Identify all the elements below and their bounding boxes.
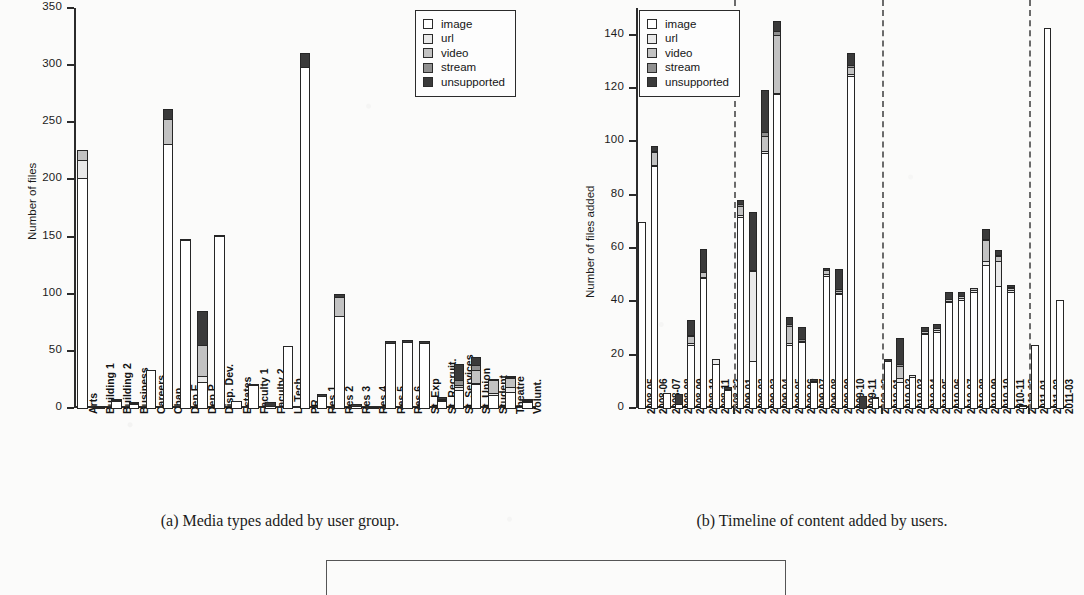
y-tick bbox=[629, 407, 636, 409]
bar-segment-image bbox=[663, 393, 671, 409]
bar bbox=[700, 249, 708, 408]
bar-segment-image bbox=[761, 153, 769, 409]
legend-label-stream: stream bbox=[665, 62, 700, 74]
plot-area-b: 020406080100120140Number of files added2… bbox=[636, 8, 1066, 408]
bar-segment-url bbox=[77, 160, 88, 179]
bar bbox=[859, 396, 867, 408]
bar bbox=[982, 229, 990, 408]
legend-label-url: url bbox=[441, 33, 454, 45]
legend-swatch-stream bbox=[423, 63, 433, 73]
legend-row: unsupported bbox=[423, 75, 505, 90]
x-tick-label: Volunt. bbox=[531, 379, 543, 414]
bar-segment-image bbox=[651, 166, 659, 409]
year-divider bbox=[882, 0, 884, 410]
bar-segment-image bbox=[773, 94, 781, 409]
bar bbox=[798, 327, 806, 408]
legend: imageurlvideostreamunsupported bbox=[415, 10, 516, 97]
y-tick-label: 0 bbox=[12, 400, 62, 412]
y-tick-label: 0 bbox=[574, 400, 624, 412]
legend-row: unsupported bbox=[647, 75, 729, 90]
bar-segment-image bbox=[884, 361, 892, 409]
x-tick bbox=[733, 408, 735, 414]
y-tick bbox=[629, 247, 636, 249]
bar-segment-url bbox=[749, 271, 757, 362]
bar bbox=[896, 338, 904, 408]
bar-segment-image bbox=[958, 300, 966, 409]
bar bbox=[749, 212, 757, 408]
y-tick-label: 20 bbox=[574, 347, 624, 359]
bar-segment-image bbox=[1056, 300, 1064, 409]
bar bbox=[786, 317, 794, 408]
y-tick bbox=[629, 194, 636, 196]
bar-segment-image bbox=[749, 361, 757, 409]
y-axis-title: Number of files bbox=[26, 163, 38, 240]
y-tick-label: 50 bbox=[12, 343, 62, 355]
bar-segment-image bbox=[970, 292, 978, 409]
bar bbox=[773, 21, 781, 408]
legend-swatch-url bbox=[647, 34, 657, 44]
bar-segment-url bbox=[995, 261, 1003, 288]
plot-area-a: 050100150200250300350Number of filesArts… bbox=[74, 8, 536, 408]
bar-segment-image bbox=[724, 390, 732, 409]
y-tick bbox=[629, 300, 636, 302]
bar-segment-video bbox=[334, 297, 345, 318]
y-tick bbox=[629, 354, 636, 356]
y-tick-label: 80 bbox=[574, 187, 624, 199]
bar bbox=[970, 288, 978, 408]
y-tick-label: 140 bbox=[574, 27, 624, 39]
y-tick bbox=[67, 121, 74, 123]
legend-label-stream: stream bbox=[441, 62, 476, 74]
bar-segment-video bbox=[761, 136, 769, 152]
x-tick-label: Res 2 bbox=[343, 386, 355, 414]
year-divider bbox=[1029, 0, 1031, 410]
bar bbox=[1044, 28, 1052, 408]
bar bbox=[724, 387, 732, 408]
bar-segment-video bbox=[651, 152, 659, 165]
legend-swatch-video bbox=[647, 48, 657, 58]
bar-segment-video bbox=[197, 345, 208, 377]
legend-label-image: image bbox=[665, 19, 696, 31]
y-tick bbox=[67, 407, 74, 409]
figure-row: 050100150200250300350Number of filesArts… bbox=[0, 0, 1084, 548]
bar-segment-image bbox=[1019, 406, 1027, 409]
bar bbox=[687, 320, 695, 408]
bar bbox=[712, 359, 720, 408]
legend-row: url bbox=[647, 32, 729, 47]
legend-row: stream bbox=[647, 61, 729, 76]
bar-segment-image bbox=[786, 345, 794, 409]
bar-segment-unsupported bbox=[761, 90, 769, 133]
legend-swatch-image bbox=[647, 19, 657, 29]
bar bbox=[1007, 285, 1015, 408]
caption-b: (b) Timeline of content added by users. bbox=[560, 512, 1084, 530]
bar-segment-image bbox=[921, 334, 929, 409]
legend-label-unsupported: unsupported bbox=[441, 77, 505, 89]
bar-segment-image bbox=[700, 278, 708, 409]
y-tick bbox=[67, 64, 74, 66]
legend-swatch-image bbox=[423, 19, 433, 29]
x-tick bbox=[881, 408, 883, 414]
bar bbox=[1031, 345, 1039, 408]
bar bbox=[180, 239, 191, 408]
legend-label-image: image bbox=[441, 19, 472, 31]
y-tick-label: 300 bbox=[12, 57, 62, 69]
y-tick bbox=[629, 34, 636, 36]
bar-segment-image bbox=[933, 332, 941, 409]
bar bbox=[810, 379, 818, 408]
legend: imageurlvideostreamunsupported bbox=[639, 10, 740, 97]
bar-segment-image bbox=[638, 222, 646, 409]
bar-segment-image bbox=[675, 404, 683, 409]
bar-segment-unsupported bbox=[859, 396, 867, 409]
y-tick bbox=[67, 236, 74, 238]
bar-segment-unsupported bbox=[687, 320, 695, 336]
y-axis-line bbox=[74, 8, 76, 408]
bar bbox=[1019, 405, 1027, 408]
panel-b: 020406080100120140Number of files added2… bbox=[560, 0, 1084, 548]
caption-a: (a) Media types added by user group. bbox=[0, 512, 560, 530]
y-tick-label: 120 bbox=[574, 80, 624, 92]
bar bbox=[945, 292, 953, 408]
bar-segment-video bbox=[896, 366, 904, 379]
legend-row: url bbox=[423, 32, 505, 47]
legend-row: image bbox=[423, 17, 505, 32]
bar-segment-image bbox=[300, 67, 311, 409]
legend-label-url: url bbox=[665, 33, 678, 45]
